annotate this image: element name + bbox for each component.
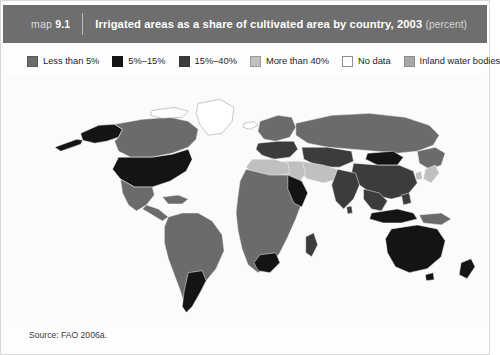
legend-item-more-than-40: More than 40% xyxy=(250,56,329,67)
map-label: map xyxy=(31,18,52,30)
legend-item-inland-water: Inland water bodies xyxy=(404,56,500,67)
legend-item-5-to-15: 5%–15% xyxy=(112,56,165,67)
legend-label-no-data: No data xyxy=(358,56,391,66)
page-title: Irrigated areas as a share of cultivated… xyxy=(95,18,467,30)
legend-label-15-to-40: 15%–40% xyxy=(195,56,237,66)
source-note: Source: FAO 2006a. xyxy=(29,330,107,340)
region-philippines xyxy=(401,193,411,205)
legend-swatch-5-to-15 xyxy=(112,56,123,67)
map-header-band: map 9.1 Irrigated areas as a share of cu… xyxy=(3,5,487,43)
map-number-value: 9.1 xyxy=(55,18,70,30)
legend-label-5-to-15: 5%–15% xyxy=(128,56,165,66)
header-divider xyxy=(82,13,83,35)
legend-swatch-less-than-5 xyxy=(27,56,38,67)
legend-swatch-more-than-40 xyxy=(250,56,261,67)
page-title-text: Irrigated areas as a share of cultivated… xyxy=(95,18,422,30)
legend-label-inland-water: Inland water bodies xyxy=(420,56,500,66)
legend-label-more-than-40: More than 40% xyxy=(266,56,329,66)
page-title-unit: (percent) xyxy=(425,19,467,30)
legend: Less than 5% 5%–15% 15%–40% More than 40… xyxy=(1,49,491,73)
region-sri-lanka xyxy=(347,206,353,214)
legend-item-no-data: No data xyxy=(342,56,391,67)
legend-swatch-inland-water xyxy=(404,56,415,67)
legend-swatch-15-to-40 xyxy=(179,56,190,67)
world-map xyxy=(3,77,487,322)
map-number: map 9.1 xyxy=(31,18,70,30)
legend-item-15-to-40: 15%–40% xyxy=(179,56,237,67)
legend-item-less-than-5: Less than 5% xyxy=(27,56,99,67)
legend-label-less-than-5: Less than 5% xyxy=(43,56,99,66)
world-map-svg xyxy=(3,77,487,322)
legend-swatch-no-data xyxy=(342,56,353,67)
